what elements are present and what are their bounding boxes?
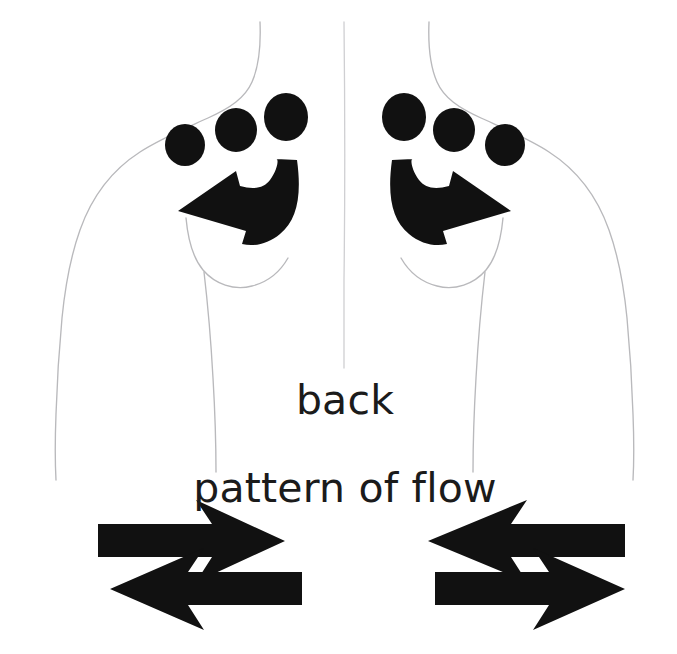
- diagram-canvas: back pattern of flow: [0, 0, 677, 654]
- label-pattern-of-flow: pattern of flow: [193, 464, 497, 512]
- label-back: back: [296, 376, 394, 424]
- left-node-2-dot: [215, 108, 257, 152]
- left-node-1-dot: [165, 124, 205, 166]
- left-node-3-dot: [264, 93, 308, 141]
- right-node-1-dot: [382, 93, 426, 141]
- anatomy-flow-diagram: back pattern of flow: [0, 0, 677, 654]
- right-node-3-dot: [485, 124, 525, 166]
- spine-center-line: [344, 22, 345, 368]
- right-node-2-dot: [433, 108, 475, 152]
